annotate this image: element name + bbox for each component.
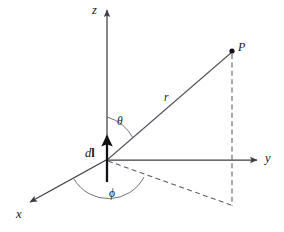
phi-angle-label: ϕ (109, 188, 115, 200)
point-p-dot (229, 48, 234, 53)
z-axis-label: z (92, 4, 97, 17)
dl-l-glyph: l (91, 146, 94, 160)
x-axis-line (30, 159, 108, 202)
figure-canvas: z y x θ ϕ r P dl (0, 0, 284, 232)
xy-projection-dashed-line (108, 161, 231, 205)
y-axis-label: y (265, 152, 271, 165)
theta-angle-label: θ (117, 116, 123, 128)
dl-current-element-label: dl (85, 147, 95, 160)
x-axis-label: x (16, 208, 22, 221)
point-p-label: P (238, 41, 245, 53)
r-vector-label: r (164, 92, 168, 104)
r-vector-line (107, 52, 232, 160)
coordinate-diagram-svg (0, 0, 284, 232)
